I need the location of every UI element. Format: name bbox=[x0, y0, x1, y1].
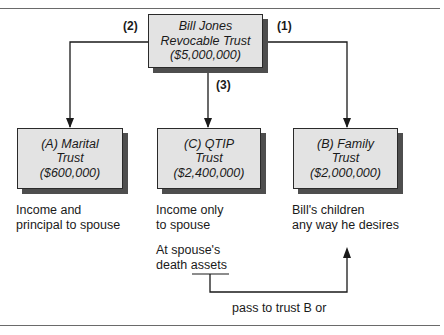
marital-line-2: Trust bbox=[18, 151, 122, 166]
arrowhead-c bbox=[204, 118, 212, 128]
pass-to-trust-b-label: pass to trust B or bbox=[232, 301, 326, 316]
step-label-1: (1) bbox=[277, 19, 292, 33]
qtip-desc-line-1: Income only bbox=[156, 203, 223, 218]
qtip-death-note: At spouse's death assets bbox=[156, 243, 227, 273]
death-note-prefix: death bbox=[156, 258, 191, 272]
qtip-trust-box: (C) QTIP Trust ($2,400,000) bbox=[157, 128, 261, 189]
family-line-1: (B) Family bbox=[294, 137, 397, 152]
family-line-3: ($2,000,000) bbox=[294, 166, 397, 181]
marital-desc-line-1: Income and bbox=[16, 203, 120, 218]
step-label-3: (3) bbox=[216, 78, 231, 92]
marital-line-3: ($600,000) bbox=[18, 166, 122, 181]
revocable-trust-box: Bill Jones Revocable Trust ($5,000,000) bbox=[148, 14, 263, 68]
connector-root-to-b bbox=[263, 42, 347, 127]
arrowhead-b bbox=[343, 118, 351, 128]
connector-assets-to-b bbox=[210, 250, 347, 292]
root-line-3: ($5,000,000) bbox=[149, 48, 262, 63]
root-line-2: Revocable Trust bbox=[149, 34, 262, 49]
root-line-1: Bill Jones bbox=[149, 19, 262, 34]
family-trust-box: (B) Family Trust ($2,000,000) bbox=[293, 128, 398, 189]
family-line-2: Trust bbox=[294, 151, 397, 166]
marital-line-1: (A) Marital bbox=[18, 137, 122, 152]
qtip-line-3: ($2,400,000) bbox=[158, 166, 260, 181]
qtip-line-2: Trust bbox=[158, 151, 260, 166]
death-note-line-1: At spouse's bbox=[156, 243, 227, 258]
qtip-desc-line-2: to spouse bbox=[156, 218, 223, 233]
death-note-assets: assets bbox=[191, 258, 227, 272]
arrowhead-a bbox=[66, 118, 74, 128]
family-desc-line-1: Bill's children bbox=[292, 203, 399, 218]
marital-description: Income and principal to spouse bbox=[16, 203, 120, 233]
marital-trust-box: (A) Marital Trust ($600,000) bbox=[17, 128, 123, 189]
death-note-line-2: death assets bbox=[156, 258, 227, 273]
step-label-2: (2) bbox=[123, 19, 138, 33]
family-desc-line-2: any way he desires bbox=[292, 218, 399, 233]
arrowhead-assets-to-b bbox=[343, 247, 351, 258]
family-description: Bill's children any way he desires bbox=[292, 203, 399, 233]
connector-root-to-a bbox=[70, 42, 148, 127]
qtip-description: Income only to spouse bbox=[156, 203, 223, 233]
qtip-line-1: (C) QTIP bbox=[158, 137, 260, 152]
marital-desc-line-2: principal to spouse bbox=[16, 218, 120, 233]
